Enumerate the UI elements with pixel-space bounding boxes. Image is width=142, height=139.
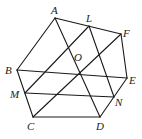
segment-BE bbox=[17, 70, 127, 78]
point-label-E: E bbox=[128, 74, 136, 86]
point-label-O: O bbox=[74, 51, 82, 63]
segment-BA bbox=[17, 18, 55, 70]
segment-MN bbox=[25, 93, 114, 97]
point-label-C: C bbox=[27, 120, 35, 132]
geometry-diagram: A L F O E B M N C D bbox=[0, 0, 142, 139]
segment-AD bbox=[55, 18, 100, 117]
labels-group: A L F O E B M N C D bbox=[5, 4, 136, 132]
point-label-F: F bbox=[122, 27, 130, 39]
segment-CF bbox=[33, 34, 121, 117]
segments-group bbox=[17, 18, 127, 117]
point-label-B: B bbox=[5, 64, 12, 76]
point-label-L: L bbox=[85, 12, 92, 24]
point-label-N: N bbox=[114, 96, 123, 108]
segment-FE bbox=[121, 34, 127, 78]
point-label-A: A bbox=[50, 4, 58, 16]
point-label-M: M bbox=[9, 88, 20, 100]
segment-LN bbox=[89, 26, 114, 97]
point-label-D: D bbox=[95, 120, 104, 132]
